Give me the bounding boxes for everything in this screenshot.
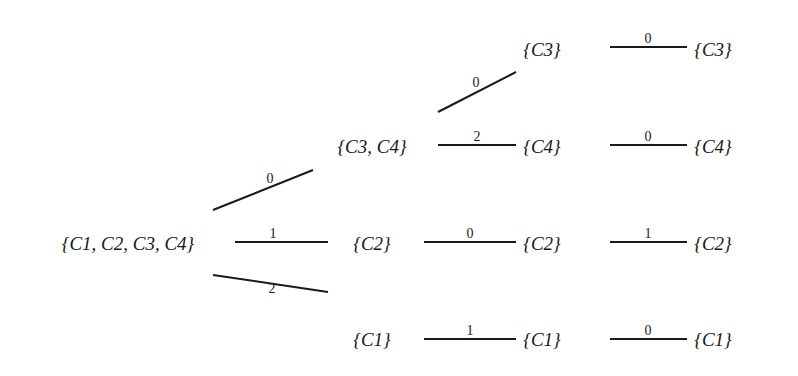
- edge-label: 1: [645, 226, 652, 241]
- edge-label: 2: [474, 129, 481, 144]
- tree-diagram: 01202010010 {C1, C2, C3, C4}{C3, C4}{C2}…: [0, 0, 798, 376]
- nodes-group: {C1, C2, C3, C4}{C3, C4}{C2}{C1}{C3}{C4}…: [62, 39, 732, 350]
- edge-label: 0: [645, 31, 652, 46]
- node-c3a: {C3}: [523, 39, 561, 60]
- node-c4a: {C4}: [523, 136, 561, 157]
- edge-label: 0: [467, 226, 474, 241]
- node-c2c: {C2}: [694, 233, 732, 254]
- node-c2a: {C2}: [353, 233, 391, 254]
- node-c4b: {C4}: [694, 136, 732, 157]
- edge-label: 0: [645, 323, 652, 338]
- edge-label: 2: [269, 281, 276, 296]
- node-c34: {C3, C4}: [337, 136, 406, 157]
- node-root: {C1, C2, C3, C4}: [62, 233, 195, 254]
- node-c2b: {C2}: [523, 233, 561, 254]
- node-c1b: {C1}: [523, 329, 561, 350]
- node-c3b: {C3}: [694, 39, 732, 60]
- node-c1a: {C1}: [353, 329, 391, 350]
- edge-root-c34: [213, 170, 313, 210]
- edge-label: 0: [645, 129, 652, 144]
- edges-group: 01202010010: [213, 31, 687, 339]
- edge-label: 0: [267, 171, 274, 186]
- node-c1c: {C1}: [694, 329, 732, 350]
- edge-label: 1: [467, 323, 474, 338]
- edge-label: 0: [473, 75, 480, 90]
- edge-label: 1: [270, 226, 277, 241]
